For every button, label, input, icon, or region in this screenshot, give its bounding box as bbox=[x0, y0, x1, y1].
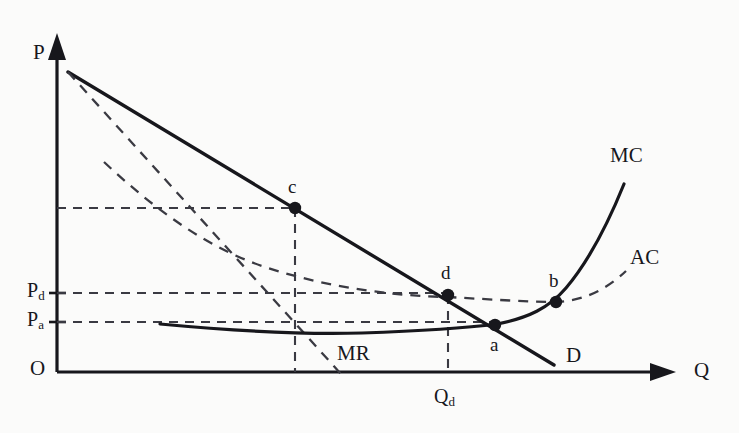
marginal-cost-curve-group bbox=[160, 184, 624, 334]
x-axis-label: Q bbox=[694, 360, 709, 381]
marginal-cost-label: MC bbox=[610, 145, 643, 166]
y-tick-label-pd-sub: d bbox=[38, 288, 45, 303]
origin-label: O bbox=[30, 358, 45, 379]
marginal-cost-curve bbox=[160, 184, 624, 334]
point-b-label: b bbox=[549, 271, 559, 290]
point-b-marker bbox=[550, 296, 562, 308]
x-tick-label-qd-sub: d bbox=[448, 394, 455, 409]
demand-label: D bbox=[566, 345, 581, 366]
point-d-label: d bbox=[441, 263, 451, 282]
point-c-marker bbox=[289, 202, 301, 214]
plotted-points-group bbox=[289, 202, 562, 331]
point-a-label: a bbox=[490, 335, 498, 354]
economics-diagram-figure: P Q O Pd Pa Qd MC AC MR D c d b a bbox=[0, 0, 739, 433]
y-tick-label-pd: Pd bbox=[27, 280, 45, 302]
marginal-revenue-label: MR bbox=[337, 343, 370, 364]
y-tick-label-pd-main: P bbox=[27, 279, 38, 301]
x-axis-arrowhead bbox=[650, 363, 676, 381]
y-tick-label-pa: Pa bbox=[27, 309, 44, 331]
y-axis-arrowhead bbox=[48, 33, 66, 60]
average-cost-label: AC bbox=[630, 247, 659, 268]
average-cost-curve-group bbox=[104, 162, 626, 302]
y-axis-label: P bbox=[33, 42, 45, 63]
y-tick-label-pa-sub: a bbox=[38, 317, 44, 332]
y-tick-label-pa-main: P bbox=[27, 308, 38, 330]
point-a-marker bbox=[489, 319, 501, 331]
point-d-marker bbox=[442, 289, 454, 301]
x-tick-label-qd: Qd bbox=[434, 386, 455, 408]
point-c-label: c bbox=[288, 177, 296, 196]
average-cost-curve bbox=[104, 162, 626, 302]
x-tick-label-qd-main: Q bbox=[434, 385, 448, 407]
diagram-canvas bbox=[0, 0, 739, 433]
